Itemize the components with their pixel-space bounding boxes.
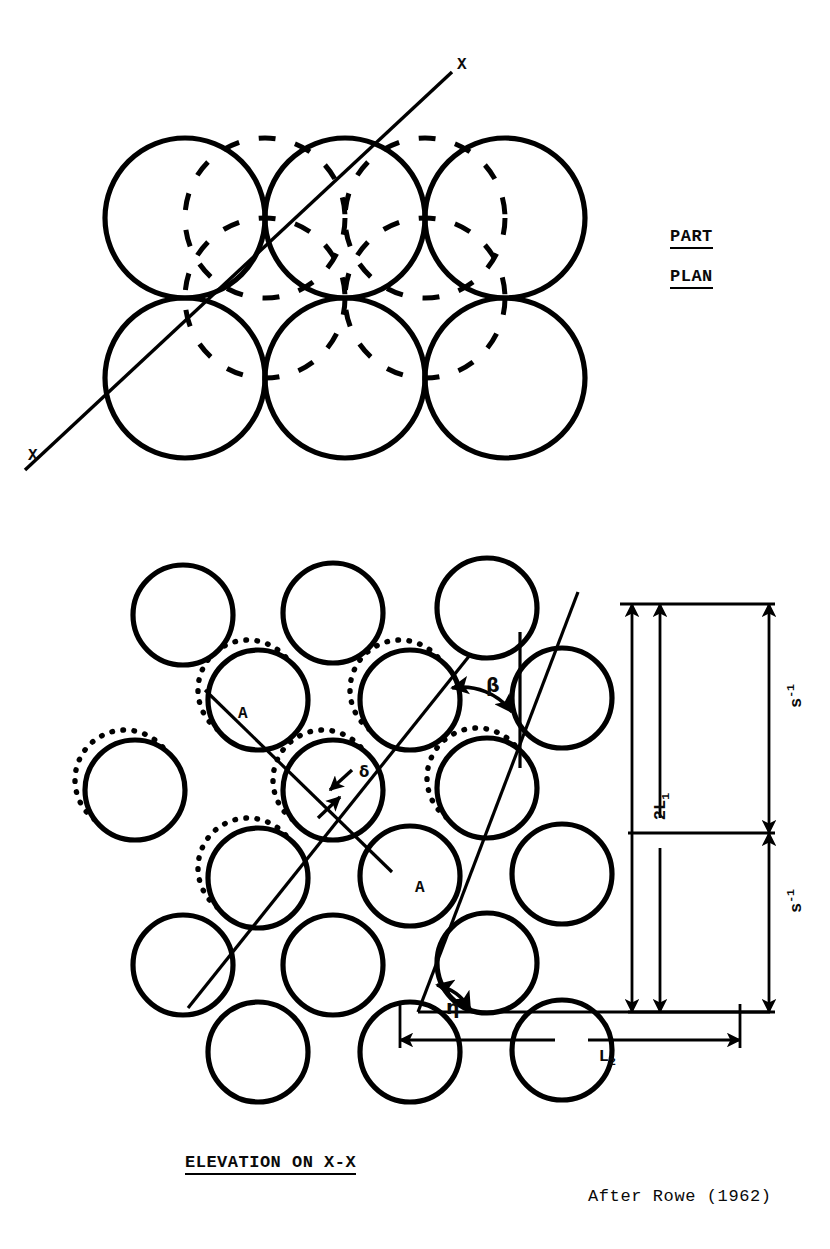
s-inv-lower-exponent: -1: [784, 889, 797, 903]
dim-label-l2: L2: [558, 1031, 616, 1085]
plan-solid-circle: [105, 138, 265, 298]
elevation-title: ELEVATION ON X-X: [185, 1154, 356, 1175]
particle-label-a-lower: A: [415, 880, 425, 896]
figure-credit: After Rowe (1962): [588, 1188, 772, 1205]
l1-base: 2L: [651, 800, 670, 820]
l1-subscript: 1: [659, 793, 672, 800]
plan-solid-circles: [105, 138, 585, 458]
delta-displacement-label: δ: [359, 765, 369, 780]
dim-label-s-inverse-lower: s-1: [768, 910, 822, 954]
plan-solid-circle: [265, 138, 425, 298]
plan-title-line-1: PART: [670, 228, 713, 249]
beta-angle-label: β: [486, 676, 500, 695]
elevation-solid-circle: [283, 915, 383, 1015]
particle-label-a-upper: A: [238, 706, 248, 722]
plan-solid-circle: [425, 298, 585, 458]
dim-label-s-inverse-upper: s-1: [768, 705, 822, 749]
section-marker-bottom-x: X: [28, 448, 38, 464]
elevation-solid-circle: [437, 738, 537, 838]
plan-title-line-2: PLAN: [670, 268, 713, 289]
s-inv-upper-base: s: [787, 698, 806, 708]
elevation-solid-circle: [360, 1002, 460, 1102]
elevation-solid-circle: [133, 565, 233, 665]
elevation-solid-circle: [360, 650, 460, 750]
plan-view-group: [25, 72, 585, 470]
s-inv-lower-base: s: [787, 903, 806, 913]
elevation-solid-circle: [512, 824, 612, 924]
elevation-solid-circle: [208, 650, 308, 750]
dim-label-2l1: 2L1: [635, 813, 689, 861]
plan-solid-circle: [425, 138, 585, 298]
elevation-solid-circle: [133, 915, 233, 1015]
l2-subscript: 2: [609, 1055, 616, 1068]
elevation-solid-circle: [512, 648, 612, 748]
eta-angle-label: η: [446, 998, 460, 1017]
elevation-solid-circle: [85, 740, 185, 840]
section-marker-top-x: X: [457, 57, 467, 73]
figure-rowe-particle-packing: PART PLAN X X β δ η A A s-1 s-1 2L1 L2 E…: [0, 0, 830, 1249]
figure-drawing-canvas: [0, 0, 830, 1249]
s-inv-upper-exponent: -1: [784, 684, 797, 698]
l2-base: L: [599, 1047, 609, 1066]
elevation-solid-circle: [360, 826, 460, 926]
elevation-solid-circle: [283, 563, 383, 663]
plan-solid-circle: [265, 298, 425, 458]
elevation-solid-circle: [437, 558, 537, 658]
elevation-solid-circle: [208, 1002, 308, 1102]
